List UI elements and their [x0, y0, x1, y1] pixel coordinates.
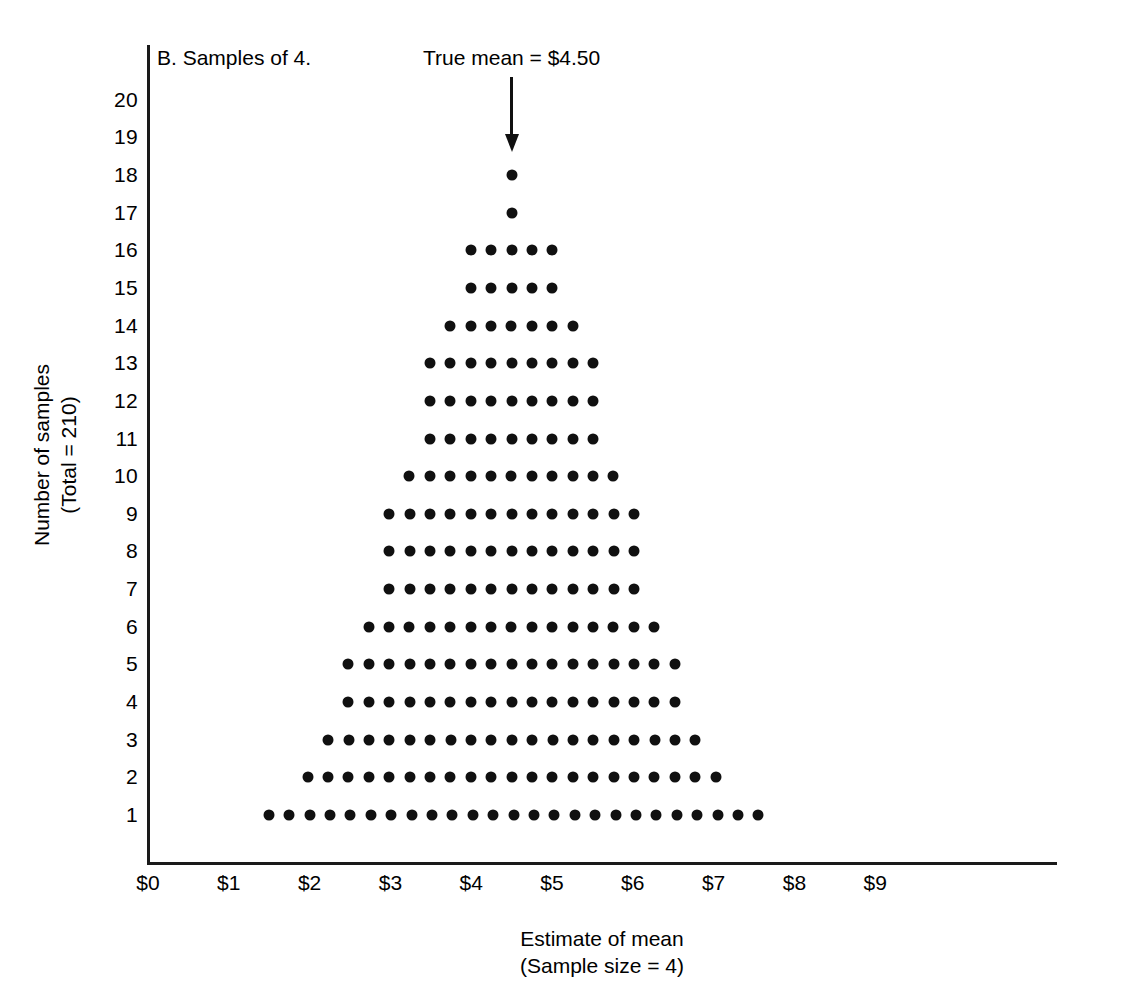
data-point-dot — [343, 659, 354, 670]
data-point-dot — [345, 810, 356, 821]
data-point-dot — [567, 546, 578, 557]
data-point-dot — [465, 584, 476, 595]
data-point-dot — [365, 810, 376, 821]
data-point-dot — [486, 508, 497, 519]
data-point-dot — [527, 546, 538, 557]
data-point-dot — [547, 584, 558, 595]
data-point-dot — [547, 697, 558, 708]
data-point-dot — [671, 810, 682, 821]
panel-title: B. Samples of 4. — [157, 46, 311, 70]
data-point-dot — [465, 659, 476, 670]
data-point-dot — [424, 772, 435, 783]
data-point-dot — [404, 772, 415, 783]
data-point-dot — [384, 772, 395, 783]
data-point-dot — [465, 358, 476, 369]
data-point-dot — [588, 546, 599, 557]
data-point-dot — [404, 734, 415, 745]
data-point-dot — [427, 810, 438, 821]
data-point-dot — [506, 621, 517, 632]
data-point-dot — [465, 734, 476, 745]
data-point-dot — [384, 546, 395, 557]
data-point-dot — [567, 584, 578, 595]
data-point-dot — [404, 621, 415, 632]
data-point-dot — [527, 772, 538, 783]
data-point-dot — [669, 772, 680, 783]
data-point-dot — [363, 772, 374, 783]
data-point-dot — [506, 282, 517, 293]
data-point-dot — [549, 810, 560, 821]
data-point-dot — [465, 546, 476, 557]
data-point-dot — [629, 584, 640, 595]
data-point-dot — [465, 508, 476, 519]
data-point-dot — [608, 584, 619, 595]
data-point-dot — [547, 471, 558, 482]
data-point-dot — [569, 810, 580, 821]
data-point-dot — [343, 734, 354, 745]
data-point-dot — [629, 697, 640, 708]
data-point-dot — [424, 358, 435, 369]
data-point-dot — [526, 471, 537, 482]
data-point-dot — [424, 659, 435, 670]
data-point-dot — [608, 546, 619, 557]
data-point-dot — [527, 584, 538, 595]
data-point-dot — [631, 810, 642, 821]
data-point-dot — [486, 697, 497, 708]
data-point-dot — [465, 433, 476, 444]
data-point-dot — [486, 245, 497, 256]
data-point-dot — [649, 772, 660, 783]
data-point-dot — [567, 433, 578, 444]
data-point-dot — [465, 772, 476, 783]
data-point-dot — [590, 810, 601, 821]
data-point-dot — [527, 395, 538, 406]
data-point-dot — [445, 621, 456, 632]
data-point-dot — [608, 471, 619, 482]
data-point-dot — [608, 697, 619, 708]
data-point-dot — [465, 621, 476, 632]
data-point-dot — [363, 697, 374, 708]
data-point-dot — [384, 584, 395, 595]
data-point-dot — [465, 320, 476, 331]
data-point-dot — [567, 621, 578, 632]
data-point-dot — [588, 772, 599, 783]
data-point-dot — [527, 697, 538, 708]
data-point-dot — [608, 621, 619, 632]
data-point-dot — [508, 810, 519, 821]
data-point-dot — [424, 433, 435, 444]
data-point-dot — [486, 433, 497, 444]
data-point-dot — [629, 772, 640, 783]
data-point-dot — [284, 810, 295, 821]
data-point-dot — [263, 810, 274, 821]
data-point-dot — [465, 282, 476, 293]
data-point-dot — [710, 772, 721, 783]
data-point-dot — [733, 810, 744, 821]
data-point-dot — [465, 471, 476, 482]
data-point-dot — [547, 508, 558, 519]
data-point-dot — [588, 471, 599, 482]
data-point-dot — [588, 395, 599, 406]
data-point-dot — [363, 734, 374, 745]
data-point-dot — [608, 772, 619, 783]
data-point-dot — [588, 508, 599, 519]
data-point-dot — [608, 659, 619, 670]
data-point-dot — [547, 320, 558, 331]
data-point-dot — [506, 320, 517, 331]
data-point-dot — [506, 395, 517, 406]
data-point-dot — [506, 659, 517, 670]
data-point-dot — [404, 546, 415, 557]
data-point-dot — [424, 471, 435, 482]
data-point-dot — [547, 621, 558, 632]
data-point-dot — [486, 734, 497, 745]
data-point-dot — [424, 584, 435, 595]
true-mean-annotation-label: True mean = $4.50 — [423, 46, 600, 70]
data-point-dot — [527, 734, 538, 745]
data-point-dot — [628, 621, 639, 632]
data-point-dot — [649, 697, 660, 708]
data-point-dot — [465, 245, 476, 256]
data-point-dot — [445, 659, 456, 670]
data-point-dot — [588, 659, 599, 670]
data-point-dot — [465, 395, 476, 406]
data-point-dot — [588, 358, 599, 369]
data-point-dot — [384, 697, 395, 708]
data-point-dot — [527, 433, 538, 444]
data-point-dot — [445, 358, 456, 369]
